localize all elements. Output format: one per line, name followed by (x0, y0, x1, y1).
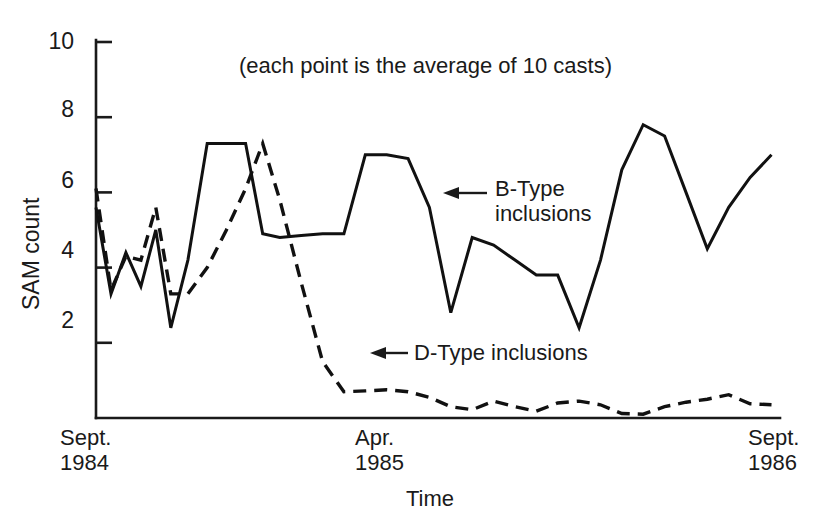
x-tick-label-end: Sept. 1986 (748, 426, 799, 475)
chart-note: (each point is the average of 10 casts) (239, 53, 612, 79)
b-type-label-line1: B-Type (495, 176, 592, 201)
y-tick-label-6: 6 (28, 167, 74, 194)
x-tick-label-end-month: Sept. (748, 426, 799, 451)
b-type-label-line2: inclusions (495, 201, 592, 226)
d-type-annotation-arrow (370, 347, 408, 359)
y-axis-ticks (96, 42, 112, 343)
series-line-b-type (96, 125, 772, 328)
y-tick-label-10: 10 (28, 28, 74, 55)
y-tick-label-2: 2 (28, 307, 74, 334)
x-tick-label-middle-month: Apr. (355, 426, 404, 451)
x-tick-label-start: Sept. 1984 (60, 426, 111, 475)
x-tick-label-end-year: 1986 (748, 451, 799, 476)
y-tick-label-8: 8 (28, 96, 74, 123)
x-tick-label-start-month: Sept. (60, 426, 111, 451)
d-type-series-label: D-Type inclusions (414, 340, 588, 365)
y-axis-title: SAM count (18, 198, 45, 311)
x-tick-label-middle-year: 1985 (355, 451, 404, 476)
series-line-d-type (96, 144, 772, 415)
x-axis-title: Time (406, 486, 454, 512)
b-type-annotation-arrow (443, 187, 487, 199)
x-tick-label-start-year: 1984 (60, 451, 111, 476)
b-type-series-label: B-Type inclusions (495, 176, 592, 227)
x-tick-label-middle: Apr. 1985 (355, 426, 404, 475)
chart-figure: 10 8 6 4 2 SAM count Sept. 1984 Apr. 198… (0, 0, 832, 523)
